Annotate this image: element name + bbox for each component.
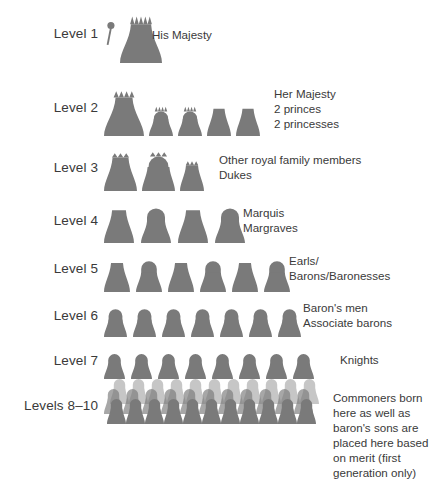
crowd-group-levels-8-10 [104,378,322,424]
person-figure [202,398,221,424]
level-label-levels-8-10: Levels 8–10 [0,398,98,413]
person-figure [278,398,297,424]
person-figure [126,398,145,424]
person-figure [164,398,183,424]
hierarchy-diagram: Level 1His MajestyLevel 2Her Majesty 2 p… [0,0,441,498]
person-figure [240,398,259,424]
crowd-front-row [107,398,316,424]
level-row-levels-8-10: Levels 8–10Commoners born here as well a… [0,0,441,498]
person-figure [145,398,164,424]
person-figure [183,398,202,424]
level-description-levels-8-10: Commoners born here as well as baron's s… [333,390,428,480]
person-figure [107,398,126,424]
person-figure [259,398,278,424]
person-figure [297,398,316,424]
person-figure [221,398,240,424]
